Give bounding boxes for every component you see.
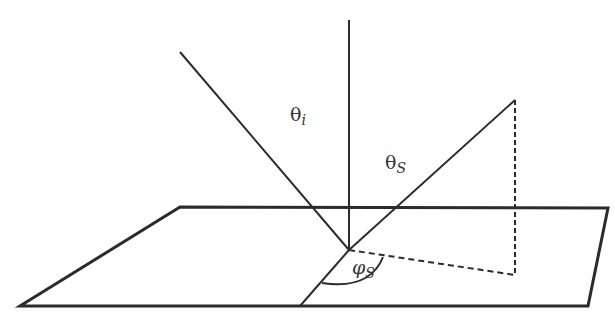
theta-s-subscript: S (396, 160, 406, 176)
theta-i-subscript: i (301, 112, 305, 128)
scattered-ray (349, 100, 515, 250)
phi-s-label: φS (352, 258, 375, 280)
theta-i-symbol: θ (290, 103, 301, 125)
theta-s-symbol: θ (385, 151, 396, 173)
scattering-geometry-diagram (0, 0, 615, 331)
theta-i-label: θi (290, 105, 306, 127)
phi-s-symbol: φ (352, 256, 365, 278)
theta-s-label: θS (385, 153, 406, 175)
plane-of-incidence-line (300, 250, 349, 306)
incident-ray (180, 52, 349, 250)
phi-s-subscript: S (365, 265, 375, 281)
